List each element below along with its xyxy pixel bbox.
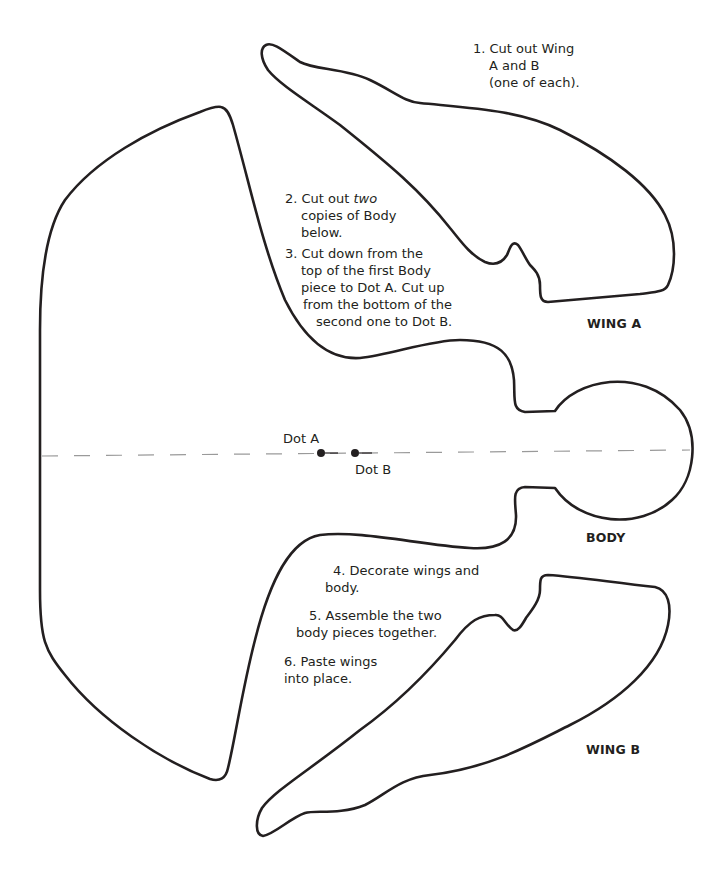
step-3-line-1: 3. Cut down from the [285,245,452,262]
wing-a-label: WING A [587,316,641,331]
step-4-line-2: body. [325,579,479,596]
wing-b-label: WING B [586,742,640,757]
step-1-line-2: A and B [473,57,580,74]
dot-a-marker [317,449,325,457]
step-2-line-3: below. [285,224,396,241]
step-5-line-1: 5. Assemble the two [296,607,442,624]
instruction-step-5: 5. Assemble the two body pieces together… [296,607,442,641]
instruction-step-6: 6. Paste wings into place. [284,653,377,687]
dot-b-label: Dot B [355,462,391,477]
body-label: BODY [586,530,625,545]
instruction-step-4: 4. Decorate wings and body. [325,562,479,596]
step-1-line-3: (one of each). [473,74,580,91]
step-1-line-1: 1. Cut out Wing [473,40,580,57]
step-2-prefix: 2. Cut out [285,191,354,206]
step-3-line-3: piece to Dot A. Cut up [285,279,452,296]
step-3-line-4: from the bottom of the [285,296,452,313]
step-3-line-5: second one to Dot B. [285,313,452,330]
step-3-line-2: top of the first Body [285,262,452,279]
dot-a-label: Dot A [283,431,319,446]
instruction-step-2: 2. Cut out two copies of Body below. [285,190,396,241]
dot-b-marker [351,449,359,457]
instruction-step-1: 1. Cut out Wing A and B (one of each). [473,40,580,91]
step-5-line-2: body pieces together. [296,624,442,641]
step-2-line-2: copies of Body [285,207,396,224]
step-6-line-2: into place. [284,670,377,687]
step-4-line-1: 4. Decorate wings and [325,562,479,579]
step-2-emphasis: two [354,191,378,206]
instruction-step-3: 3. Cut down from the top of the first Bo… [285,245,452,330]
step-2-line-1: 2. Cut out two [285,190,396,207]
step-6-line-1: 6. Paste wings [284,653,377,670]
